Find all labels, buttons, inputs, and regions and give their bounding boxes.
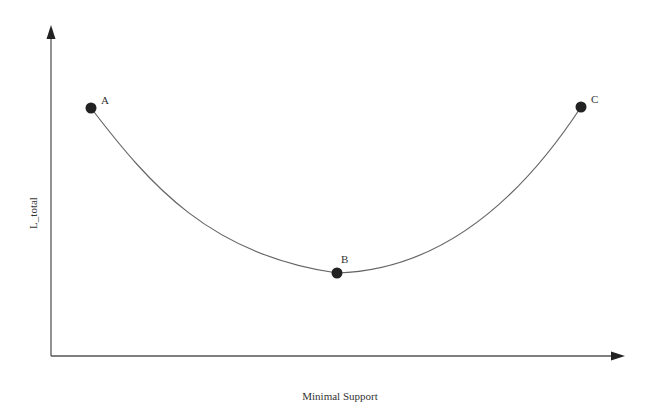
chart-canvas: A B C Minimal Support L_total (0, 0, 649, 419)
point-c-label: C (591, 93, 598, 105)
x-axis-arrow-icon (611, 352, 625, 361)
point-b-label: B (341, 253, 348, 265)
point-b (332, 268, 343, 279)
y-axis-label: L_total (27, 197, 39, 229)
point-a-label: A (101, 94, 109, 106)
point-a (86, 103, 97, 114)
loss-curve (91, 107, 581, 273)
x-axis-label: Minimal Support (302, 390, 377, 402)
y-axis-arrow-icon (47, 25, 56, 39)
point-c (576, 102, 587, 113)
